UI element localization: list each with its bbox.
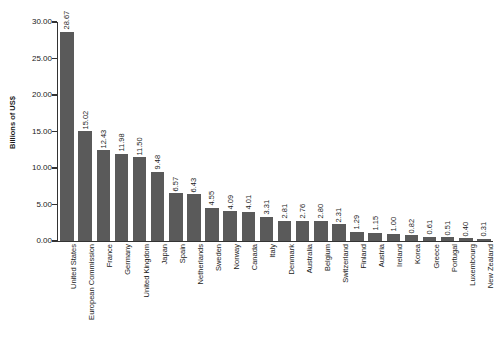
bar-group: 1.15 xyxy=(368,22,381,241)
bar-value-label: 6.57 xyxy=(172,176,180,191)
y-axis-tick-label: 0.00 xyxy=(18,237,52,245)
x-axis-category-label: Germany xyxy=(124,244,132,275)
bar-group: 4.09 xyxy=(223,22,236,241)
bar-group: 2.81 xyxy=(278,22,291,241)
bar[interactable] xyxy=(405,235,418,241)
bar-group: 0.61 xyxy=(423,22,436,241)
bar[interactable] xyxy=(169,193,182,241)
x-axis-category-label: European Commission xyxy=(88,244,96,320)
bar-group: 6.43 xyxy=(187,22,200,241)
y-axis-tick-mark xyxy=(52,58,57,59)
bar-value-label: 12.43 xyxy=(99,129,107,148)
bar[interactable] xyxy=(387,234,400,241)
x-axis-category-label: Austria xyxy=(378,244,386,267)
bar-value-label: 9.48 xyxy=(154,155,162,170)
x-axis-category-label: Japan xyxy=(161,244,169,264)
bar-group: 2.31 xyxy=(332,22,345,241)
x-axis-category-label: Sweden xyxy=(215,244,223,271)
bar-group: 11.50 xyxy=(133,22,146,241)
bar-group: 3.31 xyxy=(260,22,273,241)
x-axis-category-label: Portugal xyxy=(451,244,459,272)
bar-group: 2.80 xyxy=(314,22,327,241)
bar-value-label: 6.43 xyxy=(190,177,198,192)
bar-value-label: 0.61 xyxy=(425,220,433,235)
bar-group: 4.55 xyxy=(205,22,218,241)
bar-group: 2.76 xyxy=(296,22,309,241)
bar[interactable] xyxy=(459,238,472,241)
bar[interactable] xyxy=(477,239,490,241)
y-axis-tick-label: 25.00 xyxy=(18,55,52,63)
x-axis-category-label: Norway xyxy=(233,244,241,269)
bar[interactable] xyxy=(423,237,436,241)
bar[interactable] xyxy=(60,32,73,241)
x-axis-category-label: United States xyxy=(70,244,78,289)
bar-value-label: 1.00 xyxy=(389,217,397,232)
x-axis-category-labels: United StatesEuropean CommissionFranceGe… xyxy=(58,244,493,344)
bar-group: 6.57 xyxy=(169,22,182,241)
bar-value-label: 1.29 xyxy=(353,215,361,230)
y-axis-tick-mark xyxy=(52,131,57,132)
bar-group: 0.31 xyxy=(477,22,490,241)
bar-value-label: 4.09 xyxy=(226,195,234,210)
y-axis-tick-label: 15.00 xyxy=(18,128,52,136)
y-axis-tick-mark xyxy=(52,94,57,95)
y-axis-tick-mark xyxy=(52,204,57,205)
x-axis-category-label: Belgium xyxy=(324,244,332,271)
y-axis-tick-label: 10.00 xyxy=(18,164,52,172)
x-axis-category-label: Italy xyxy=(269,244,277,258)
bar-group: 4.01 xyxy=(242,22,255,241)
x-axis-category-label: Denmark xyxy=(288,244,296,274)
bar-value-label: 28.67 xyxy=(63,11,71,30)
bar-group: 0.51 xyxy=(441,22,454,241)
bar[interactable] xyxy=(133,157,146,241)
x-axis-category-label: Luxembourg xyxy=(469,244,477,286)
x-axis-category-label: Netherlands xyxy=(197,244,205,284)
bar-value-label: 2.76 xyxy=(299,204,307,219)
bar[interactable] xyxy=(332,224,345,241)
bar[interactable] xyxy=(296,221,309,241)
bar-value-label: 2.81 xyxy=(280,204,288,219)
x-axis-category-label: Finland xyxy=(360,244,368,269)
bar[interactable] xyxy=(205,208,218,241)
bar[interactable] xyxy=(368,233,381,241)
bar[interactable] xyxy=(97,150,110,241)
bar[interactable] xyxy=(441,237,454,241)
x-axis-category-label: Korea xyxy=(414,244,422,264)
bar[interactable] xyxy=(278,221,291,242)
bar[interactable] xyxy=(260,217,273,241)
x-axis-category-label: France xyxy=(106,244,114,267)
bar[interactable] xyxy=(223,211,236,241)
bar-value-label: 0.31 xyxy=(480,222,488,237)
bar[interactable] xyxy=(115,154,128,241)
bar-value-label: 15.02 xyxy=(81,111,89,130)
bar-value-label: 0.51 xyxy=(444,221,452,236)
plot-area: 28.6715.0212.4311.9811.509.486.576.434.5… xyxy=(58,22,493,241)
bar-value-label: 11.50 xyxy=(135,137,143,155)
bar-value-label: 2.80 xyxy=(317,204,325,219)
bar-group: 1.00 xyxy=(387,22,400,241)
bar-group: 0.82 xyxy=(405,22,418,241)
bar[interactable] xyxy=(314,221,327,241)
x-axis-category-label: Switzerland xyxy=(342,244,350,283)
bar-group: 28.67 xyxy=(60,22,73,241)
x-axis-category-label: Ireland xyxy=(396,244,404,267)
x-axis-category-label: Greece xyxy=(433,244,441,269)
bar[interactable] xyxy=(242,212,255,241)
bar[interactable] xyxy=(151,172,164,241)
bar-value-label: 2.31 xyxy=(335,208,343,223)
bar-group: 11.98 xyxy=(115,22,128,241)
bar-chart: Billions of US$ 0.005.0010.0015.0020.002… xyxy=(0,0,501,344)
bar-group: 0.40 xyxy=(459,22,472,241)
bar-group: 12.43 xyxy=(97,22,110,241)
y-axis-tick-mark xyxy=(52,240,57,241)
x-axis-category-label: Canada xyxy=(251,244,259,270)
bar[interactable] xyxy=(187,194,200,241)
x-axis-category-label: United Kingdom xyxy=(143,244,151,297)
bar-value-label: 3.31 xyxy=(262,200,270,215)
y-axis-tick-label: 30.00 xyxy=(18,18,52,26)
bar-value-label: 11.98 xyxy=(117,133,125,151)
x-axis-category-label: Australia xyxy=(306,244,314,273)
bar-value-label: 0.82 xyxy=(407,218,415,233)
bar[interactable] xyxy=(78,131,91,241)
bar[interactable] xyxy=(350,232,363,241)
